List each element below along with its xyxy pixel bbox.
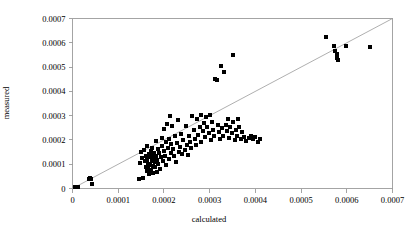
svg-text:0.0001: 0.0001 (42, 159, 65, 169)
svg-text:0: 0 (61, 184, 65, 194)
svg-text:0.0006: 0.0006 (42, 38, 65, 48)
svg-text:0.0003: 0.0003 (42, 111, 65, 121)
x-axis-ticks (73, 189, 393, 193)
svg-text:0: 0 (70, 195, 74, 205)
y-tick-labels: 00.00010.00020.00030.00040.00050.00060.0… (42, 14, 66, 194)
y-axis-ticks (69, 19, 73, 189)
svg-text:0.0003: 0.0003 (198, 195, 221, 205)
x-axis-title: calculated (0, 214, 418, 224)
svg-text:0.0007: 0.0007 (381, 195, 404, 205)
svg-text:0.0005: 0.0005 (289, 195, 312, 205)
x-tick-labels: 00.00010.00020.00030.00040.00050.00060.0… (70, 195, 404, 205)
scatter-chart: 00.00010.00020.00030.00040.00050.00060.0… (0, 0, 418, 237)
svg-text:0.0005: 0.0005 (42, 62, 65, 72)
svg-text:0.0006: 0.0006 (335, 195, 358, 205)
plot-area: 00.00010.00020.00030.00040.00050.00060.0… (0, 0, 418, 237)
svg-text:0.0004: 0.0004 (244, 195, 268, 205)
svg-text:0.0004: 0.0004 (42, 86, 66, 96)
y-axis-title: measured (1, 73, 11, 133)
svg-text:0.0007: 0.0007 (42, 14, 65, 24)
svg-text:0.0002: 0.0002 (152, 195, 175, 205)
svg-text:0.0002: 0.0002 (42, 135, 65, 145)
svg-text:0.0001: 0.0001 (107, 195, 130, 205)
data-point-markers (73, 35, 372, 189)
